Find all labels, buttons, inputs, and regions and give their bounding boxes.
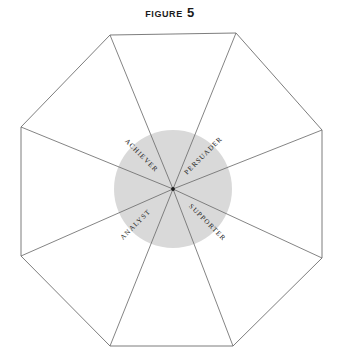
center-node [171,187,175,191]
figure-container: Figure 5 Achiever Persuader Analyst Supp… [0,0,340,363]
octagon-diagram: Achiever Persuader Analyst Supporter [0,0,340,363]
